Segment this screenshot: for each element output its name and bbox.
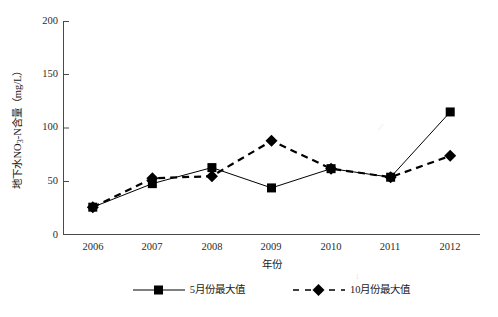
data-series-layer xyxy=(87,107,456,213)
scan-artifact: ⁄⁄ xyxy=(392,283,395,292)
x-tick-label-2012: 2012 xyxy=(420,240,480,253)
x-tick-label-2007: 2007 xyxy=(122,240,182,253)
data-point-diamond xyxy=(444,150,456,162)
scan-artifact: ⁄ xyxy=(380,123,382,132)
y-tick-label-150: 150 xyxy=(18,69,58,79)
y-axis-tick-labels: 200 150 100 50 0 xyxy=(14,0,58,317)
y-tick-label-0: 0 xyxy=(18,230,58,240)
y-tick-label-100: 100 xyxy=(18,122,58,132)
series-october xyxy=(87,135,456,213)
series-may xyxy=(88,107,454,211)
plot-area xyxy=(63,21,480,235)
legend-item-may: 5月份最大值 xyxy=(133,283,245,297)
scan-artifact: ↓ xyxy=(355,272,360,281)
square-marker-icon xyxy=(133,284,185,296)
data-point-diamond xyxy=(266,135,278,147)
chart-legend: 5月份最大值 10月份最大值 xyxy=(63,280,480,300)
y-tick-label-50: 50 xyxy=(18,176,58,186)
y-axis-ticks xyxy=(64,22,70,182)
x-tick-label-2006: 2006 xyxy=(63,240,123,253)
x-tick-label-2008: 2008 xyxy=(182,240,242,253)
series-line xyxy=(93,141,450,207)
x-axis-tick-labels: 2006 2007 2008 2009 2010 2011 2012 xyxy=(63,240,480,256)
y-tick-label-200: 200 xyxy=(18,16,58,26)
x-axis-title: 年份 xyxy=(63,258,480,272)
data-point-square xyxy=(267,183,276,192)
diamond-marker-icon xyxy=(293,284,345,296)
legend-label-october: 10月份最大值 xyxy=(350,283,411,297)
series-line xyxy=(93,112,450,207)
x-tick-label-2010: 2010 xyxy=(301,240,361,253)
legend-label-may: 5月份最大值 xyxy=(190,283,245,297)
chart-figure: 地下水NO3-N含量（mg/L） 200 150 100 50 0 xyxy=(0,0,498,317)
x-tick-label-2009: 2009 xyxy=(241,240,301,253)
data-point-square xyxy=(446,107,455,116)
x-tick-label-2011: 2011 xyxy=(360,240,420,253)
plot-svg xyxy=(63,21,480,235)
